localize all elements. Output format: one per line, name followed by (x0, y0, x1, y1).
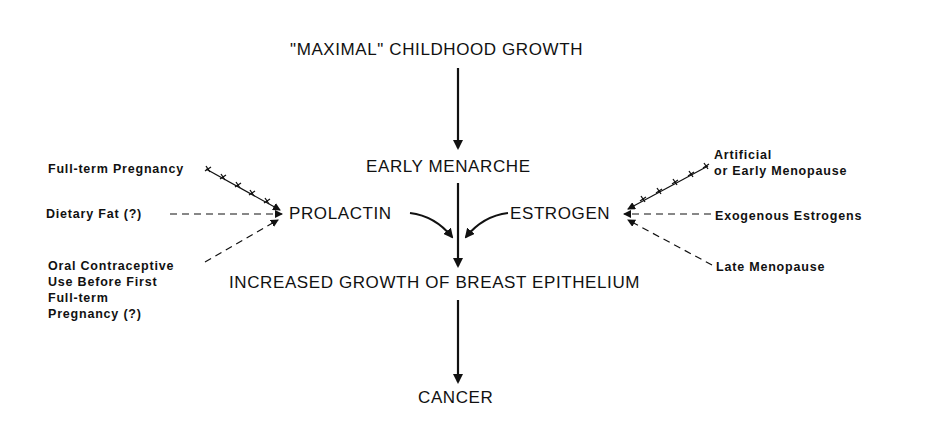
factor-oral-contraceptive: Oral Contraceptive Use Before First Full… (48, 258, 174, 322)
factor-artificial-early-menopause: Artificial or Early Menopause (714, 147, 847, 179)
node-early-menarche: EARLY MENARCHE (366, 157, 531, 177)
arrow-prolactin-to-growth (410, 213, 452, 237)
inhibit-pregnancy-to-prolactin (205, 166, 280, 210)
factor-oc-line-2: Use Before First (48, 274, 174, 290)
factor-artificial-line-2: or Early Menopause (714, 163, 847, 179)
inhibit-menopause-to-estrogen (628, 163, 709, 209)
node-maximal-childhood-growth: "MAXIMAL" CHILDHOOD GROWTH (290, 40, 583, 60)
factor-artificial-line-1: Artificial (714, 147, 847, 163)
promote-oc-to-prolactin (205, 220, 278, 262)
node-cancer: CANCER (418, 388, 493, 408)
promote-late-to-estrogen (628, 220, 712, 265)
factor-oc-line-4: Pregnancy (?) (48, 306, 174, 322)
factor-oc-line-1: Oral Contraceptive (48, 258, 174, 274)
factor-dietary-fat: Dietary Fat (?) (46, 206, 142, 222)
node-increased-growth-breast-epithelium: INCREASED GROWTH OF BREAST EPITHELIUM (229, 273, 640, 293)
diagram-canvas: "MAXIMAL" CHILDHOOD GROWTH EARLY MENARCH… (0, 0, 935, 421)
factor-full-term-pregnancy: Full-term Pregnancy (48, 161, 184, 177)
node-estrogen: ESTROGEN (510, 204, 610, 224)
arrow-estrogen-to-growth (466, 213, 508, 237)
factor-exogenous-estrogens: Exogenous Estrogens (715, 208, 862, 224)
factor-late-menopause: Late Menopause (716, 259, 825, 275)
node-prolactin: PROLACTIN (289, 204, 392, 224)
factor-oc-line-3: Full-term (48, 290, 174, 306)
